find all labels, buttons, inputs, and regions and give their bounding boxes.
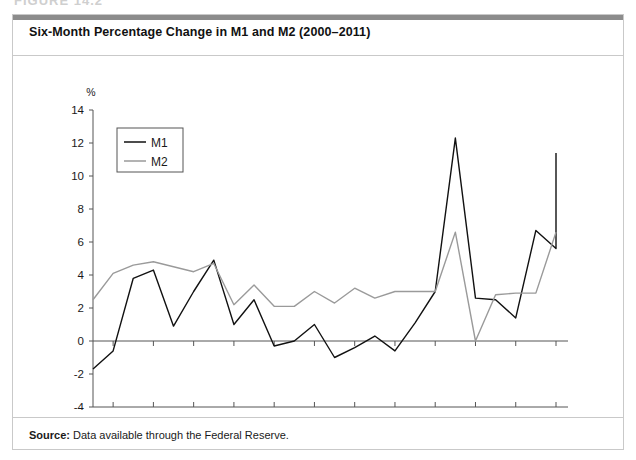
title-rule [13,15,623,20]
y-tick-label: 12 [71,137,84,149]
series-line-m2 [93,232,556,341]
clipped-figure-number: FIGURE 14.2 [14,0,103,8]
line-chart: -4-202468101214% 20012002200320042005200… [13,56,625,410]
y-axis-unit-label: % [86,86,95,98]
source-divider [13,417,623,418]
legend-label-m1: M1 [151,136,168,150]
y-tick-label: 0 [78,335,84,347]
chart-legend: M1M2 [117,128,183,172]
chart-plot-area: -4-202468101214% 20012002200320042005200… [13,56,625,410]
y-axis: -4-202468101214% [71,86,95,410]
source-note: Source: Data available through the Feder… [29,429,289,441]
figure-title: Six-Month Percentage Change in M1 and M2… [29,25,370,39]
y-tick-label: 14 [71,104,84,116]
y-tick-label: 8 [78,203,84,215]
figure-panel: Six-Month Percentage Change in M1 and M2… [12,14,624,450]
series-group [93,138,556,369]
legend-box [117,128,183,172]
source-label: Source: [29,429,70,441]
source-text: Data available through the Federal Reser… [70,429,289,441]
y-tick-label: -4 [74,401,85,410]
legend-label-m2: M2 [151,155,168,169]
y-tick-label: 6 [78,236,84,248]
y-tick-label: 2 [78,302,84,314]
y-tick-label: 10 [71,170,84,182]
y-tick-label: -2 [74,368,84,380]
y-tick-label: 4 [78,269,85,281]
series-line-m1 [93,138,556,369]
